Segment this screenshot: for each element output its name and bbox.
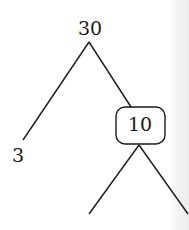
edge-ten-right xyxy=(139,145,188,214)
left-node-label: 3 xyxy=(12,146,24,165)
root-node-label: 30 xyxy=(78,19,102,38)
edge-root-left xyxy=(23,42,89,140)
edge-root-right xyxy=(89,42,131,107)
factor-tree-diagram: 30 3 10 xyxy=(0,0,189,230)
boxed-node-label: 10 xyxy=(128,115,152,134)
edge-ten-left xyxy=(89,145,139,214)
